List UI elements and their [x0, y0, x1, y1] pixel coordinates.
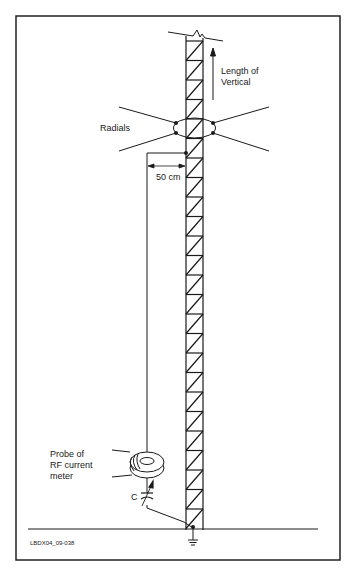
probe-label-line1: Probe of [50, 449, 85, 459]
mast-icon [186, 36, 203, 530]
length-label-line2: Vertical [221, 77, 251, 87]
probe-label-line2: RF current [50, 460, 93, 470]
tap-point-dot [184, 151, 188, 155]
mast-top-break [168, 30, 223, 41]
distance-dimension [148, 164, 185, 168]
length-arrow-icon [211, 48, 216, 100]
rf-probe-toroid-icon [112, 450, 164, 478]
capacitor-label: C [131, 492, 138, 502]
radials-label: Radials [100, 123, 131, 133]
length-label-line1: Length of [221, 66, 259, 76]
probe-label-line3: meter [50, 471, 73, 481]
distance-label: 50 cm [156, 172, 181, 182]
figure-id-label: LBDX04_09-038 [30, 540, 75, 546]
ground-symbol-icon [188, 527, 198, 545]
vertical-antenna-diagram: Length of Vertical Radials 50 cm [0, 0, 347, 568]
